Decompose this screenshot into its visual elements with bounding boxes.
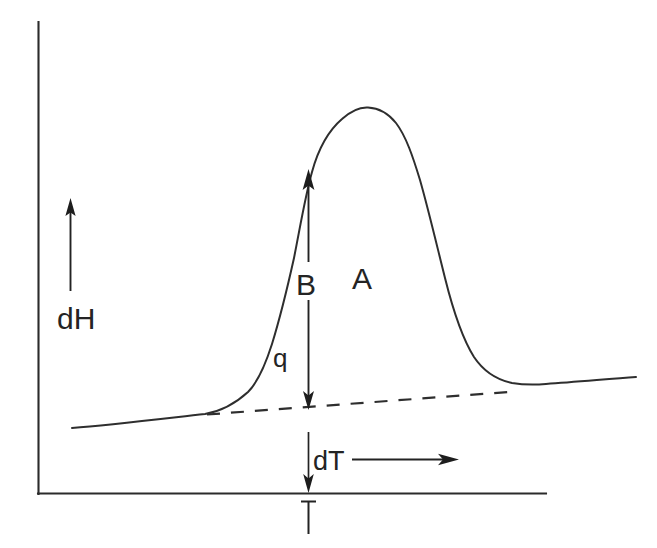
peak-area-label-a: A (352, 262, 372, 295)
thermogram-figure: dH B A q dT (0, 0, 657, 548)
dt-arrow-group (352, 454, 459, 465)
peak-height-label-b: B (296, 268, 316, 301)
figure-canvas: dH B A q dT (0, 0, 657, 548)
dh-arrow-group (65, 198, 75, 291)
temperature-tick-group (301, 501, 316, 534)
labels-group: dH B A q dT (57, 262, 372, 476)
heat-label-q: q (273, 343, 287, 373)
extrapolated-baseline (207, 392, 515, 415)
y-axis-label-dh: dH (57, 302, 95, 335)
x-axis-label-dt: dT (313, 446, 345, 476)
